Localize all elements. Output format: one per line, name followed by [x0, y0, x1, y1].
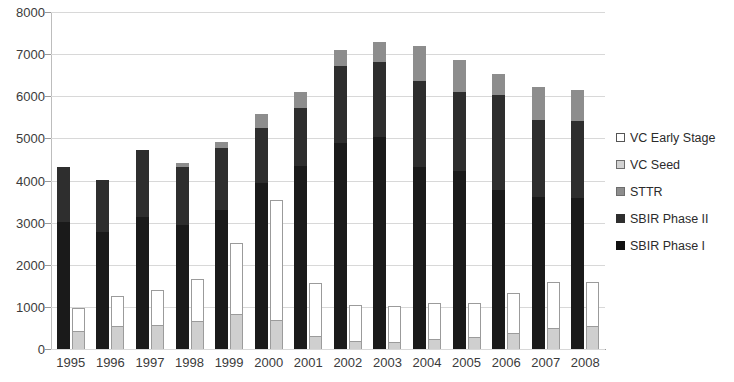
bar-segment[interactable]	[532, 120, 545, 198]
vc-stacked-bar[interactable]	[151, 290, 164, 349]
bar-segment[interactable]	[111, 326, 124, 349]
bar-segment[interactable]	[334, 143, 347, 349]
bar-segment[interactable]	[255, 128, 268, 184]
bar-segment[interactable]	[136, 150, 149, 217]
bar-segment[interactable]	[294, 92, 307, 108]
sbir-stacked-bar[interactable]	[571, 90, 584, 349]
bar-segment[interactable]	[373, 62, 386, 137]
bar-segment[interactable]	[586, 326, 599, 349]
vc-stacked-bar[interactable]	[230, 243, 243, 349]
bar-segment[interactable]	[453, 60, 466, 92]
sbir-stacked-bar[interactable]	[453, 60, 466, 349]
vc-stacked-bar[interactable]	[72, 308, 85, 349]
bar-segment[interactable]	[96, 180, 109, 233]
sbir-stacked-bar[interactable]	[413, 46, 426, 349]
bar-segment[interactable]	[96, 232, 109, 349]
sbir-stacked-bar[interactable]	[255, 114, 268, 349]
sbir-stacked-bar[interactable]	[96, 180, 109, 349]
x-axis-tick-label: 1999	[209, 355, 249, 379]
bar-segment[interactable]	[309, 336, 322, 349]
bar-segment[interactable]	[215, 148, 228, 210]
legend-item[interactable]: SBIR Phase II	[616, 205, 734, 232]
bar-segment[interactable]	[176, 167, 189, 225]
sbir-stacked-bar[interactable]	[334, 50, 347, 349]
sbir-stacked-bar[interactable]	[492, 74, 505, 349]
bar-segment[interactable]	[413, 81, 426, 167]
bar-segment[interactable]	[532, 197, 545, 349]
vc-stacked-bar[interactable]	[270, 200, 283, 349]
vc-stacked-bar[interactable]	[191, 279, 204, 349]
vc-stacked-bar[interactable]	[428, 303, 441, 349]
bar-segment[interactable]	[215, 210, 228, 349]
sbir-stacked-bar[interactable]	[215, 142, 228, 349]
bar-segment[interactable]	[507, 333, 520, 349]
bar-segment[interactable]	[191, 279, 204, 321]
bar-segment[interactable]	[255, 114, 268, 127]
bar-segment[interactable]	[230, 314, 243, 349]
sbir-stacked-bar[interactable]	[373, 42, 386, 349]
legend-item[interactable]: SBIR Phase I	[616, 232, 734, 259]
bar-segment[interactable]	[57, 167, 70, 222]
bar-segment[interactable]	[492, 190, 505, 349]
vc-stacked-bar[interactable]	[468, 303, 481, 349]
bar-segment[interactable]	[72, 331, 85, 349]
bar-segment[interactable]	[586, 282, 599, 326]
bar-segment[interactable]	[309, 283, 322, 336]
bar-segment[interactable]	[176, 225, 189, 349]
bar-segment[interactable]	[413, 46, 426, 81]
vc-stacked-bar[interactable]	[547, 282, 560, 349]
bar-segment[interactable]	[492, 74, 505, 95]
bar-segment[interactable]	[57, 222, 70, 349]
bar-segment[interactable]	[270, 200, 283, 320]
bar-segment[interactable]	[468, 303, 481, 337]
bar-segment[interactable]	[136, 217, 149, 349]
legend-item-label: VC Seed	[630, 158, 680, 172]
bar-segment[interactable]	[453, 92, 466, 171]
bar-segment[interactable]	[294, 166, 307, 349]
bar-segment[interactable]	[571, 198, 584, 349]
vc-stacked-bar[interactable]	[111, 296, 124, 349]
bar-segment[interactable]	[334, 66, 347, 143]
vc-stacked-bar[interactable]	[309, 283, 322, 349]
bar-segment[interactable]	[334, 50, 347, 66]
vc-stacked-bar[interactable]	[388, 306, 401, 349]
bar-segment[interactable]	[547, 282, 560, 327]
sbir-stacked-bar[interactable]	[176, 163, 189, 349]
bar-segment[interactable]	[373, 137, 386, 349]
legend-item[interactable]: STTR	[616, 178, 734, 205]
bar-segment[interactable]	[571, 121, 584, 198]
bar-segment[interactable]	[72, 308, 85, 331]
bar-segment[interactable]	[468, 337, 481, 349]
sbir-stacked-bar[interactable]	[532, 87, 545, 349]
bar-segment[interactable]	[230, 243, 243, 314]
vc-stacked-bar[interactable]	[349, 305, 362, 349]
bar-segment[interactable]	[571, 90, 584, 122]
vc-stacked-bar[interactable]	[507, 293, 520, 349]
bar-segment[interactable]	[349, 341, 362, 349]
bar-segment[interactable]	[413, 167, 426, 349]
bar-segment[interactable]	[294, 108, 307, 166]
sbir-stacked-bar[interactable]	[57, 167, 70, 349]
bar-segment[interactable]	[492, 95, 505, 190]
bar-segment[interactable]	[428, 339, 441, 349]
legend-item[interactable]: VC Early Stage	[616, 124, 734, 151]
bar-segment[interactable]	[111, 296, 124, 326]
bar-segment[interactable]	[388, 342, 401, 349]
bar-segment[interactable]	[507, 293, 520, 333]
bar-segment[interactable]	[270, 320, 283, 349]
bar-segment[interactable]	[388, 306, 401, 342]
legend-item[interactable]: VC Seed	[616, 151, 734, 178]
sbir-stacked-bar[interactable]	[136, 150, 149, 349]
vc-stacked-bar[interactable]	[586, 282, 599, 349]
bar-segment[interactable]	[191, 321, 204, 349]
bar-segment[interactable]	[373, 42, 386, 63]
bar-segment[interactable]	[547, 328, 560, 349]
bar-segment[interactable]	[151, 325, 164, 349]
sbir-stacked-bar[interactable]	[294, 92, 307, 349]
bar-segment[interactable]	[453, 171, 466, 349]
bar-segment[interactable]	[428, 303, 441, 340]
bar-segment[interactable]	[151, 290, 164, 325]
bar-segment[interactable]	[349, 305, 362, 340]
bar-segment[interactable]	[532, 87, 545, 120]
bar-segment[interactable]	[255, 183, 268, 349]
